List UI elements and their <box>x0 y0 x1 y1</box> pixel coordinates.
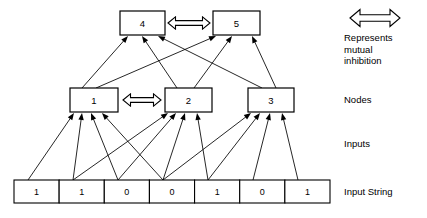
edge-input2-node-1-head <box>91 113 96 121</box>
input-to-node-edge-group <box>28 113 298 180</box>
edge-input3-node-2-head <box>180 113 185 120</box>
edge-node-2-node-5-head <box>226 36 232 43</box>
edge-input3-node-2-line <box>163 119 183 180</box>
edge-input2-node-2-line <box>118 117 172 180</box>
edge-node-1-node-5-line <box>96 38 211 88</box>
edge-node-2-node-4-head <box>142 36 148 43</box>
edge-input1-node-1-head <box>78 113 83 120</box>
node-to-top-edge-group <box>82 36 276 88</box>
input-cell-6-value: 1 <box>305 187 310 197</box>
edge-input0-node-1-head <box>68 113 74 120</box>
edge-node-2-node-5-line <box>194 41 229 88</box>
node-4[interactable]: 4 <box>120 11 165 35</box>
edge-input1-node-1-line <box>73 119 81 180</box>
edge-input3-node-3-head <box>244 113 251 119</box>
edge-input5-node-3-head <box>266 113 271 120</box>
legend-inhibition-caption: Represents mutual inhibition <box>344 32 393 67</box>
edge-input0-node-1-line <box>28 118 71 180</box>
node-1-label: 1 <box>91 95 96 106</box>
node-3[interactable]: 3 <box>248 88 294 112</box>
legend-input-string-label: Input String <box>344 186 393 198</box>
input-cell-0-value: 1 <box>34 187 39 197</box>
node-2-label: 2 <box>186 95 191 106</box>
edge-input5-node-3-line <box>253 119 269 180</box>
legend-double-arrow-icon <box>350 10 400 27</box>
edge-node-1-node-4-line <box>82 40 124 88</box>
edge-input3-node-3-line <box>163 117 246 180</box>
edge-node-3-node-4-line <box>163 39 262 88</box>
inhibition-1-2 <box>123 94 161 106</box>
legend-inhibition-icon <box>350 10 400 27</box>
edge-node-3-node-5-head <box>252 36 257 43</box>
edge-input6-node-3-line <box>283 119 298 180</box>
input-cell-4-value: 1 <box>215 187 220 197</box>
input-cell-2-value: 0 <box>124 187 129 197</box>
legend-inhibition-caption-line3: inhibition <box>344 55 393 67</box>
edge-input6-node-3-head <box>281 113 286 120</box>
legend-nodes-label: Nodes <box>344 94 371 106</box>
input-cell-3-value: 0 <box>169 187 174 197</box>
node-5-label: 5 <box>234 18 239 29</box>
legend-inhibition-caption-line1: Represents <box>344 32 393 44</box>
edge-node-1-node-5-head <box>209 36 216 41</box>
node-3-label: 3 <box>268 95 273 106</box>
input-cell-5-value: 0 <box>260 187 265 197</box>
edge-input1-node-2-head <box>161 113 168 119</box>
node-2[interactable]: 2 <box>165 88 212 112</box>
inhibition-4-5 <box>168 17 210 29</box>
edge-input1-node-2-line <box>73 116 163 180</box>
edge-node-3-node-5-line <box>254 41 276 88</box>
input-cell-1-value: 1 <box>79 187 84 197</box>
input-string-group: 1100101 <box>14 180 330 203</box>
node-4-label: 4 <box>140 18 145 29</box>
node-1[interactable]: 1 <box>70 88 118 112</box>
node-box-group: 45123 <box>70 11 294 112</box>
legend-inputs-label: Inputs <box>344 138 370 150</box>
edge-input4-node-3-head <box>254 113 260 120</box>
edge-input2-node-1-line <box>93 118 118 180</box>
legend-inhibition-caption-line2: mutual <box>344 44 393 56</box>
edge-input4-node-2-head <box>195 113 200 120</box>
diagram-canvas: 45123 1100101 Represents mutual inhibiti… <box>0 0 427 218</box>
edge-node-3-node-4-head <box>158 36 165 42</box>
node-5[interactable]: 5 <box>213 11 260 35</box>
